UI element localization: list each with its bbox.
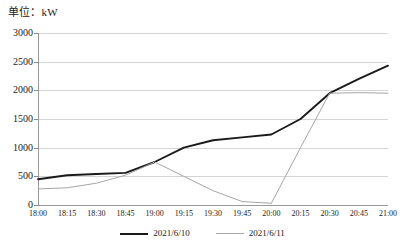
x-tick-label: 20:00 bbox=[262, 209, 280, 219]
x-tick-label: 20:15 bbox=[291, 209, 309, 219]
x-tick-label: 19:45 bbox=[233, 209, 251, 219]
y-tick-mark bbox=[34, 205, 38, 206]
legend-item-series-1[interactable]: 2021/6/10 bbox=[120, 228, 190, 239]
chart-legend: 2021/6/10 2021/6/11 bbox=[0, 228, 405, 239]
x-tick-label: 21:00 bbox=[379, 209, 397, 219]
gridline bbox=[38, 90, 388, 91]
gridline bbox=[38, 33, 388, 34]
y-tick-label: 3000 bbox=[3, 28, 33, 38]
y-tick-label: 1000 bbox=[3, 143, 33, 153]
legend-swatch-series-1 bbox=[120, 233, 148, 235]
y-axis-line bbox=[38, 33, 39, 205]
x-tick-label: 20:45 bbox=[350, 209, 368, 219]
x-tick-label: 20:30 bbox=[321, 209, 339, 219]
y-tick-label: 1500 bbox=[3, 114, 33, 124]
gridline bbox=[38, 62, 388, 63]
y-tick-mark bbox=[34, 119, 38, 120]
x-tick-label: 19:00 bbox=[146, 209, 164, 219]
y-tick-mark bbox=[34, 90, 38, 91]
legend-label-series-1: 2021/6/10 bbox=[153, 228, 190, 239]
legend-label-series-2: 2021/6/11 bbox=[249, 228, 285, 239]
gridline bbox=[38, 176, 388, 177]
y-tick-label: 500 bbox=[3, 171, 33, 181]
y-tick-label: 2500 bbox=[3, 57, 33, 67]
y-tick-mark bbox=[34, 176, 38, 177]
plot-area bbox=[38, 33, 388, 205]
gridline bbox=[38, 119, 388, 120]
x-tick-label: 19:30 bbox=[204, 209, 222, 219]
legend-item-series-2[interactable]: 2021/6/11 bbox=[216, 228, 285, 239]
x-tick-label: 18:15 bbox=[58, 209, 76, 219]
line-chart: 单位：kW 050010001500200025003000 2021/6/10… bbox=[0, 0, 405, 250]
y-tick-mark bbox=[34, 33, 38, 34]
x-tick-label: 18:00 bbox=[29, 209, 47, 219]
y-tick-mark bbox=[34, 62, 38, 63]
x-tick-label: 19:15 bbox=[175, 209, 193, 219]
y-tick-label: 2000 bbox=[3, 85, 33, 95]
gridline bbox=[38, 205, 388, 206]
legend-swatch-series-2 bbox=[216, 233, 244, 234]
gridline bbox=[38, 148, 388, 149]
y-tick-mark bbox=[34, 148, 38, 149]
x-tick-label: 18:30 bbox=[87, 209, 105, 219]
x-tick-label: 18:45 bbox=[116, 209, 134, 219]
